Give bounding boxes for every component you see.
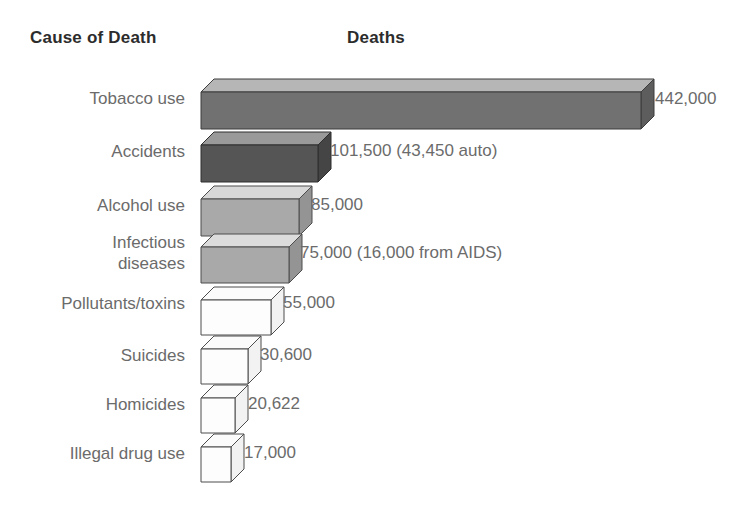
- bar-3d: [200, 78, 655, 130]
- bar-3d: [200, 286, 285, 336]
- column-header-deaths: Deaths: [347, 28, 405, 48]
- value-label: 101,500 (43,450 auto): [330, 141, 497, 161]
- category-label: Suicides: [0, 345, 185, 366]
- value-label: 20,622: [248, 394, 300, 414]
- value-label: 442,000: [655, 89, 716, 109]
- bar-3d: [200, 233, 303, 284]
- category-label: Tobacco use: [0, 88, 185, 109]
- category-label: Illegal drug use: [0, 443, 185, 464]
- value-label: 17,000: [244, 443, 296, 463]
- category-label: Alcohol use: [0, 195, 185, 216]
- bar-3d: [200, 185, 313, 237]
- value-label: 55,000: [283, 293, 335, 313]
- value-label: 75,000 (16,000 from AIDS): [300, 243, 502, 263]
- column-header-cause-of-death: Cause of Death: [30, 28, 157, 48]
- category-label: Infectious diseases: [0, 232, 185, 274]
- bar-3d: [200, 433, 245, 483]
- value-label: 30,600: [260, 345, 312, 365]
- bar-3d: [200, 384, 249, 434]
- bar-3d: [200, 131, 332, 183]
- category-label: Homicides: [0, 394, 185, 415]
- bar-3d: [200, 335, 262, 385]
- chart-container: Cause of Death Deaths Tobacco use442,000…: [0, 0, 739, 511]
- category-label: Accidents: [0, 141, 185, 162]
- category-label: Pollutants/toxins: [0, 293, 185, 314]
- value-label: 85,000: [311, 195, 363, 215]
